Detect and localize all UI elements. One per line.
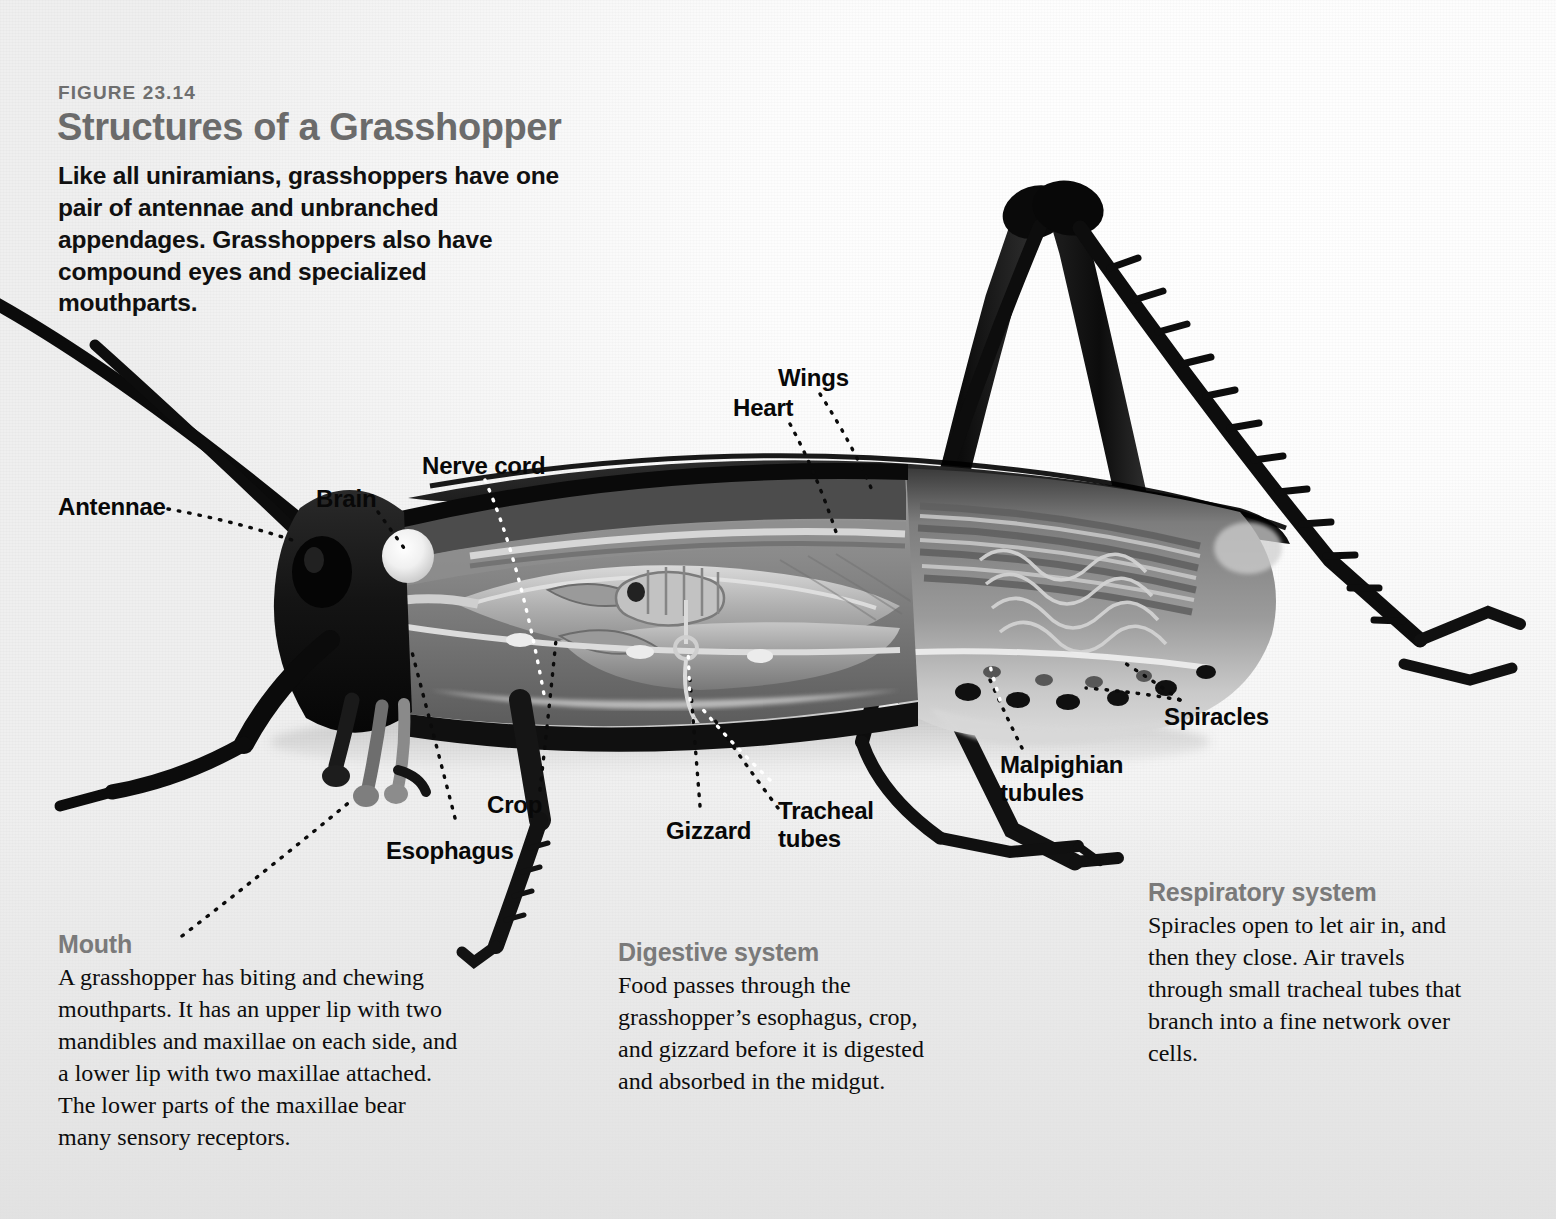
label-tracheal-tubes-line1: Tracheal (778, 798, 874, 825)
page-title: Structures of a Grasshopper (57, 106, 561, 149)
label-gizzard: Gizzard (666, 818, 751, 845)
figure-intro: Like all uniramians, grasshoppers have o… (58, 160, 568, 319)
label-tracheal-tubes-line2: tubes (778, 826, 841, 853)
brain-organ (382, 529, 434, 583)
label-brain: Brain (316, 486, 376, 513)
caption-digestive-heading: Digestive system (618, 938, 948, 967)
label-malpighian-line2: tubules (1000, 780, 1084, 807)
label-spiracles: Spiracles (1164, 704, 1269, 731)
caption-respiratory-body: Spiracles open to let air in, and then t… (1148, 910, 1478, 1070)
label-heart: Heart (733, 395, 793, 422)
label-esophagus: Esophagus (386, 838, 514, 865)
label-antennae: Antennae (58, 494, 166, 521)
label-crop: Crop (487, 792, 542, 819)
figure-number: FIGURE 23.14 (58, 82, 196, 104)
caption-mouth-heading: Mouth (58, 930, 458, 959)
caption-respiratory-system: Respiratory system Spiracles open to let… (1148, 878, 1478, 1070)
caption-digestive-body: Food passes through the grasshopper’s es… (618, 970, 948, 1098)
esophagus-tube (404, 599, 478, 604)
label-nerve-cord: Nerve cord (422, 453, 545, 480)
caption-mouth-body: A grasshopper has biting and chewing mou… (58, 962, 458, 1153)
head-thorax-front (60, 490, 434, 807)
figure-23-14: FIGURE 23.14 Structures of a Grasshopper… (0, 0, 1556, 1219)
caption-digestive-system: Digestive system Food passes through the… (618, 938, 948, 1098)
label-malpighian-line1: Malpighian (1000, 752, 1123, 779)
caption-respiratory-heading: Respiratory system (1148, 878, 1478, 907)
thorax-cutaway (396, 463, 924, 752)
label-wings: Wings (778, 365, 849, 392)
caption-mouth: Mouth A grasshopper has biting and chewi… (58, 930, 458, 1153)
